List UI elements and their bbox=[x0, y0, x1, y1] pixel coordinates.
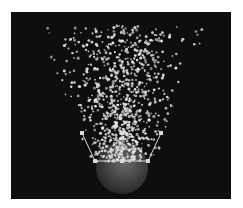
particle-scene bbox=[11, 12, 231, 199]
particle bbox=[103, 56, 106, 59]
particle bbox=[95, 43, 98, 46]
particle bbox=[99, 123, 101, 125]
particle bbox=[93, 52, 95, 54]
particle bbox=[124, 121, 127, 124]
particle bbox=[112, 69, 114, 71]
particle bbox=[99, 52, 101, 54]
particle bbox=[135, 28, 138, 31]
particle bbox=[88, 99, 91, 102]
particle bbox=[102, 113, 104, 115]
particle bbox=[112, 80, 115, 83]
particle bbox=[100, 147, 102, 149]
particle bbox=[97, 97, 100, 100]
particle bbox=[147, 64, 149, 66]
particle bbox=[91, 107, 94, 110]
particle bbox=[114, 113, 116, 115]
particle bbox=[70, 38, 72, 40]
particle bbox=[121, 40, 124, 43]
particle bbox=[127, 57, 129, 59]
gizmo-handle[interactable] bbox=[121, 160, 124, 163]
particle bbox=[118, 59, 121, 62]
particle bbox=[147, 72, 150, 75]
particle bbox=[148, 52, 151, 55]
particle bbox=[86, 77, 88, 79]
particle bbox=[93, 87, 96, 90]
particle bbox=[158, 148, 160, 150]
particle bbox=[93, 125, 95, 127]
particle bbox=[166, 112, 169, 115]
particle bbox=[99, 77, 101, 79]
particle bbox=[167, 65, 170, 68]
particle bbox=[123, 85, 125, 87]
particle bbox=[93, 56, 95, 58]
particle bbox=[123, 32, 126, 35]
particle bbox=[181, 40, 183, 42]
particle bbox=[139, 56, 142, 59]
particle bbox=[142, 132, 144, 134]
particle bbox=[156, 124, 159, 127]
particle bbox=[87, 39, 90, 42]
particle bbox=[87, 106, 89, 108]
particle bbox=[85, 49, 87, 51]
gizmo-handle[interactable] bbox=[94, 160, 97, 163]
gizmo-handle[interactable] bbox=[81, 132, 84, 135]
particle bbox=[126, 94, 128, 96]
particle bbox=[136, 128, 138, 130]
particle bbox=[120, 31, 123, 34]
particle bbox=[123, 106, 125, 108]
particle bbox=[78, 104, 80, 106]
particle bbox=[156, 81, 159, 84]
particle bbox=[109, 139, 112, 142]
particle bbox=[138, 102, 140, 104]
particle bbox=[121, 25, 123, 27]
particle bbox=[106, 111, 108, 113]
particle bbox=[73, 69, 76, 72]
render-viewport[interactable] bbox=[11, 12, 231, 199]
particle bbox=[104, 93, 106, 95]
particle bbox=[126, 97, 128, 99]
particle bbox=[154, 100, 157, 103]
particle bbox=[128, 115, 131, 118]
particle bbox=[136, 133, 139, 136]
particle bbox=[109, 89, 112, 92]
particle bbox=[130, 156, 132, 158]
particle bbox=[147, 138, 150, 141]
particle bbox=[153, 77, 155, 79]
particle bbox=[195, 30, 198, 33]
particle bbox=[107, 101, 109, 103]
particle bbox=[154, 34, 156, 36]
gizmo-handle[interactable] bbox=[160, 132, 163, 135]
particle bbox=[100, 31, 102, 33]
particle bbox=[116, 85, 118, 87]
particle bbox=[136, 125, 139, 128]
particle bbox=[154, 73, 156, 75]
gizmo-handle[interactable] bbox=[121, 132, 124, 135]
particle bbox=[110, 36, 113, 39]
particle bbox=[65, 43, 67, 45]
particle bbox=[154, 130, 157, 133]
particle bbox=[110, 106, 113, 109]
particle bbox=[105, 145, 108, 148]
particle bbox=[134, 113, 136, 115]
particle bbox=[114, 154, 116, 156]
particle bbox=[132, 148, 134, 150]
particle bbox=[129, 105, 132, 108]
particle-cloud bbox=[46, 25, 203, 163]
emitter-gizmo[interactable] bbox=[81, 132, 163, 163]
particle bbox=[138, 82, 140, 84]
particle bbox=[117, 100, 119, 102]
particle bbox=[84, 118, 86, 120]
particle bbox=[130, 99, 132, 101]
particle bbox=[143, 138, 145, 140]
particle bbox=[102, 118, 104, 120]
particle bbox=[139, 95, 141, 97]
particle bbox=[131, 72, 133, 74]
particle bbox=[116, 118, 118, 120]
particle bbox=[134, 100, 136, 102]
particle bbox=[114, 126, 117, 129]
particle bbox=[86, 44, 88, 46]
particle bbox=[149, 104, 151, 106]
particle bbox=[102, 142, 105, 145]
gizmo-handle[interactable] bbox=[147, 160, 150, 163]
particle bbox=[95, 58, 98, 61]
